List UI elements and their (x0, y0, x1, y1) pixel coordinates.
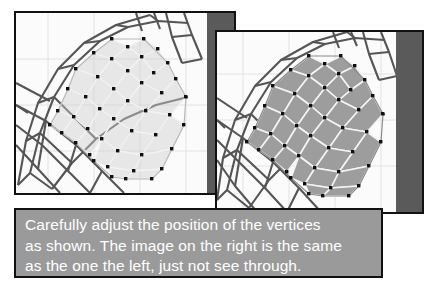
left-viewport-panel (14, 11, 236, 195)
right-viewport-canvas[interactable] (217, 32, 398, 212)
left-viewport-svg (16, 13, 207, 193)
figure-root: Carefully adjust the position of the ver… (0, 0, 430, 289)
right-viewport-svg (217, 32, 398, 212)
instruction-caption: Carefully adjust the position of the ver… (14, 208, 383, 278)
right-viewport-panel (215, 30, 424, 214)
left-viewport-canvas[interactable] (16, 13, 207, 193)
right-viewport-shade-band (396, 32, 422, 212)
